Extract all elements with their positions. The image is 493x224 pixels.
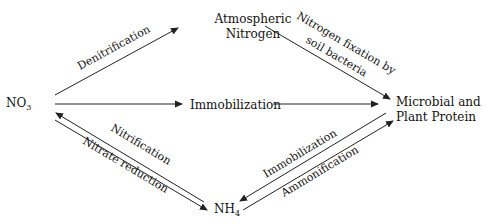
no3-label: NO3: [6, 96, 31, 112]
edge-immobilization-nh4: Immobilization: [240, 113, 386, 201]
node-immobilization-mid: Immobilization: [190, 98, 281, 112]
microbial-label-line1: Microbial and: [396, 95, 481, 109]
node-no3: NO3: [6, 96, 31, 112]
node-nh4: NH4: [214, 202, 240, 218]
microbial-label-line2: Plant Protein: [396, 110, 476, 124]
nitrate-reduction-label: Nitrate reduction: [80, 134, 170, 195]
atmospheric-label-line1: Atmospheric: [214, 12, 292, 26]
edge-denitrification: Denitrification: [55, 23, 178, 95]
nitrogen-cycle-diagram: NO3 Atmospheric Nitrogen Immobilization …: [0, 0, 493, 224]
immobilization-nh4-arrow: [240, 113, 386, 201]
nitrification-arrow: [56, 113, 204, 202]
nh4-label: NH4: [214, 202, 240, 218]
immobilization-mid-label: Immobilization: [190, 98, 281, 112]
node-atmospheric-nitrogen: Atmospheric Nitrogen: [214, 12, 292, 41]
node-microbial-plant-protein: Microbial and Plant Protein: [396, 95, 481, 124]
edge-nitrification: Nitrification: [56, 113, 204, 202]
atmospheric-label-line2: Nitrogen: [226, 27, 281, 41]
denitrification-label: Denitrification: [75, 23, 152, 73]
